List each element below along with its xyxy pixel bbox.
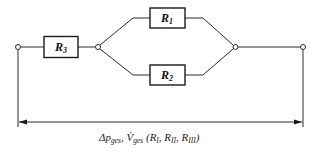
- resistor-r1: R1: [150, 8, 185, 28]
- junction-right-node: [233, 45, 238, 50]
- wire-left-junction-to-r1: [100, 18, 150, 45]
- resistor-r3: R3: [44, 37, 78, 58]
- resistor-r2: R2: [150, 65, 185, 85]
- terminal-right-node: [301, 45, 306, 50]
- dimension-label: Δpges, V̇ges (RI, RII, RIII): [98, 131, 200, 145]
- wire-r2-to-right-junction: [185, 49, 233, 75]
- terminal-left-node: [16, 45, 21, 50]
- wire-r1-to-right-junction: [185, 18, 233, 45]
- wire-left-junction-to-r2: [100, 49, 150, 75]
- arrowhead-right-icon: [294, 120, 302, 125]
- resistance-network-diagram: R3 R1 R2 Δpges, V̇ges (RI, RII, RIII): [0, 0, 315, 153]
- junction-left-node: [96, 45, 101, 50]
- arrowhead-left-icon: [19, 120, 27, 125]
